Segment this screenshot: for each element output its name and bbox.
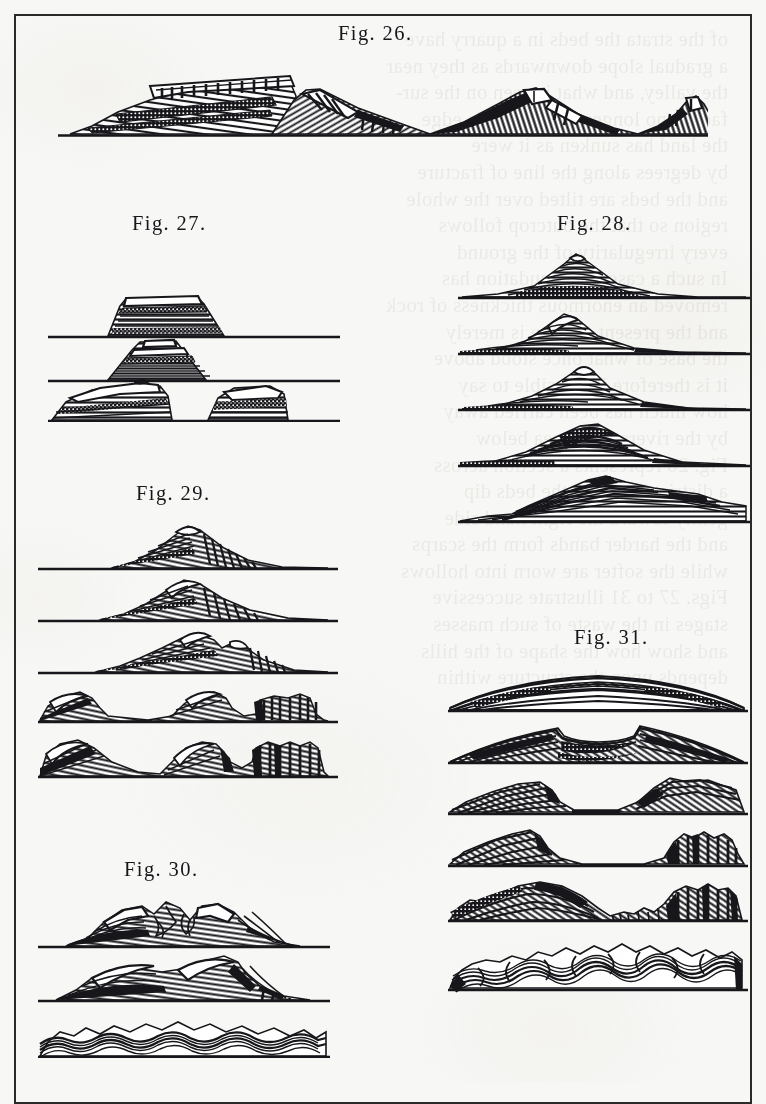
fig-27-illustration — [48, 252, 340, 422]
fig-29-label: Fig. 29. — [136, 482, 210, 505]
fig-30-illustration — [38, 898, 330, 1058]
fig-28-illustration — [458, 250, 750, 528]
fig-31-illustration — [448, 672, 748, 1008]
fig-29-illustration — [38, 520, 338, 788]
fig-30-label: Fig. 30. — [124, 858, 198, 881]
fig-26-label: Fig. 26. — [338, 22, 412, 45]
fig-26-illustration — [58, 56, 708, 146]
fig-27-label: Fig. 27. — [132, 212, 206, 235]
fig-28-label: Fig. 28. — [557, 212, 631, 235]
fig-31-label: Fig. 31. — [574, 626, 648, 649]
